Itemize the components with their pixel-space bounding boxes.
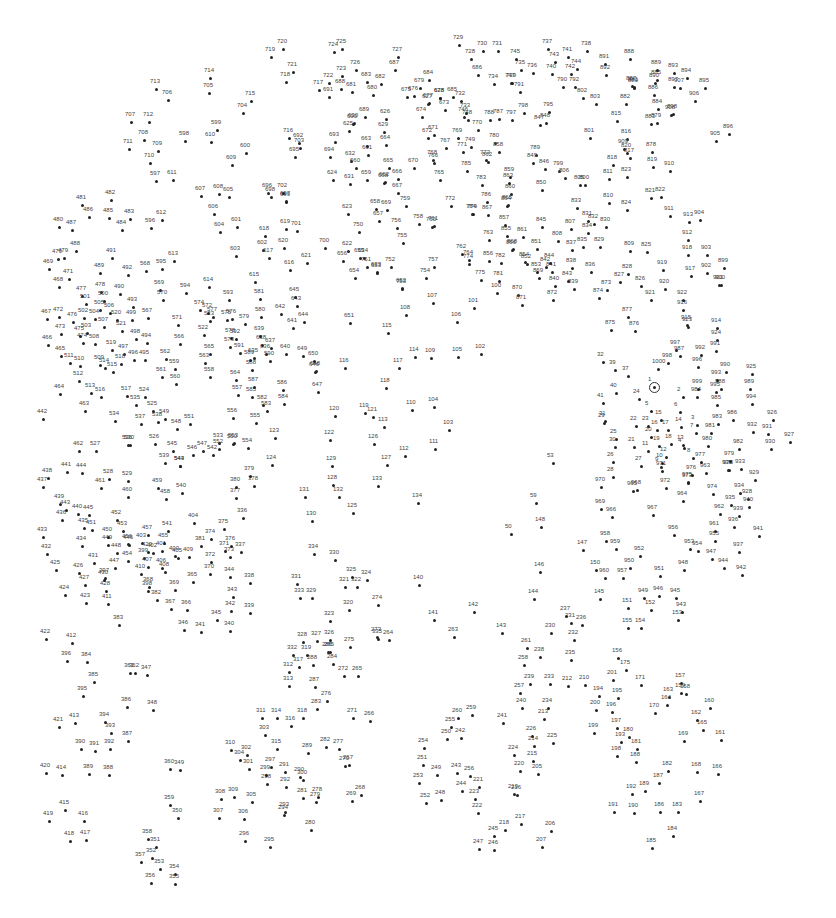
dot-number-label: 369 xyxy=(169,579,179,585)
dot-number-label: 889 xyxy=(651,59,661,65)
dot-number-label: 744 xyxy=(571,58,581,64)
dot-number-label: 230 xyxy=(545,622,555,628)
dot-marker-icon xyxy=(164,571,167,574)
dot-marker-icon xyxy=(175,383,178,386)
dot-marker-icon xyxy=(610,329,613,332)
dot-number-label: 304 xyxy=(234,749,244,755)
dot-marker-icon xyxy=(467,119,470,122)
dot-marker-icon xyxy=(579,184,582,187)
dot-number-label: 876 xyxy=(629,320,639,326)
dot-marker-icon xyxy=(480,353,483,356)
dot-marker-icon xyxy=(699,219,702,222)
dot-number-label: 348 xyxy=(147,699,157,705)
dot-number-label: 580 xyxy=(255,306,265,312)
dot-number-label: 960 xyxy=(599,567,609,573)
dot-marker-icon xyxy=(343,675,346,678)
dot-number-label: 825 xyxy=(641,241,651,247)
dot-number-label: 250 xyxy=(441,728,451,734)
dot-number-label: 339 xyxy=(244,602,254,608)
dot-number-label: 184 xyxy=(667,825,677,831)
dot-marker-icon xyxy=(264,734,267,737)
dot-marker-icon xyxy=(634,330,637,333)
dot-number-label: 19 xyxy=(653,435,660,441)
dot-number-label: 395 xyxy=(77,685,87,691)
dot-number-label: 254 xyxy=(418,737,428,743)
dot-number-label: 554 xyxy=(242,437,252,443)
dot-number-label: 210 xyxy=(579,674,589,680)
dot-marker-icon xyxy=(253,485,256,488)
dot-marker-icon xyxy=(513,754,516,757)
dot-number-label: 669 xyxy=(381,199,391,205)
dot-number-label: 272 xyxy=(338,665,348,671)
dot-number-label: 145 xyxy=(594,588,604,594)
dot-marker-icon xyxy=(567,56,570,59)
dot-marker-icon xyxy=(45,772,48,775)
dot-marker-icon xyxy=(390,266,393,269)
dot-marker-icon xyxy=(161,550,164,553)
dot-marker-icon xyxy=(433,406,436,409)
dot-number-label: 175 xyxy=(620,659,630,665)
dot-marker-icon xyxy=(397,178,400,181)
dot-marker-icon xyxy=(239,759,242,762)
dot-marker-icon xyxy=(149,162,152,165)
dot-marker-icon xyxy=(317,391,320,394)
dot-number-label: 483 xyxy=(124,208,134,214)
dot-marker-icon xyxy=(647,425,650,428)
dot-number-label: 774 xyxy=(463,253,473,259)
dot-marker-icon xyxy=(477,74,480,77)
dot-number-label: 805 xyxy=(574,174,584,180)
dot-marker-icon xyxy=(576,207,579,210)
dot-number-label: 555 xyxy=(250,412,260,418)
dot-marker-icon xyxy=(310,829,313,832)
dot-number-label: 279 xyxy=(310,791,320,797)
dot-number-label: 981 xyxy=(705,422,715,428)
dot-marker-icon xyxy=(229,556,232,559)
dot-marker-icon xyxy=(539,571,542,574)
dot-number-label: 719 xyxy=(265,46,275,52)
dot-number-label: 537 xyxy=(135,413,145,419)
dot-marker-icon xyxy=(595,103,598,106)
dot-marker-icon xyxy=(582,246,585,249)
dot-marker-icon xyxy=(244,840,247,843)
dot-number-label: 337 xyxy=(235,541,245,547)
dot-number-label: 553 xyxy=(228,432,238,438)
dot-marker-icon xyxy=(369,720,372,723)
dot-marker-icon xyxy=(439,97,442,100)
dot-number-label: 181 xyxy=(631,738,641,744)
dot-number-label: 849 xyxy=(527,152,537,158)
dot-marker-icon xyxy=(602,402,605,405)
dot-number-label: 545 xyxy=(167,440,177,446)
dot-marker-icon xyxy=(103,326,106,329)
dot-marker-icon xyxy=(500,262,503,265)
dot-number-label: 390 xyxy=(75,738,85,744)
dot-marker-icon xyxy=(307,752,310,755)
dot-number-label: 571 xyxy=(172,314,182,320)
dot-marker-icon xyxy=(296,583,299,586)
dot-number-label: 1 xyxy=(648,376,651,382)
dot-number-label: 920 xyxy=(659,278,669,284)
dot-marker-icon xyxy=(526,647,529,650)
dot-number-label: 790 xyxy=(557,76,567,82)
dot-number-label: 215 xyxy=(527,750,537,756)
dot-number-label: 105 xyxy=(452,346,462,352)
dot-number-label: 341 xyxy=(195,621,205,627)
dot-marker-icon xyxy=(622,577,625,580)
dot-number-label: 23 xyxy=(642,415,649,421)
dot-marker-icon xyxy=(130,121,133,124)
dot-number-label: 676 xyxy=(408,85,418,91)
dot-marker-icon xyxy=(376,272,379,275)
dot-marker-icon xyxy=(493,849,496,852)
dot-marker-icon xyxy=(386,209,389,212)
dot-marker-icon xyxy=(276,748,279,751)
dot-number-label: 848 xyxy=(540,112,550,118)
dot-marker-icon xyxy=(652,166,655,169)
dot-number-label: 429 xyxy=(142,541,152,547)
dot-number-label: 112 xyxy=(399,445,409,451)
dot-number-label: 867 xyxy=(482,204,492,210)
dot-marker-icon xyxy=(543,718,546,721)
dot-number-label: 349 xyxy=(174,759,184,765)
dot-number-label: 248 xyxy=(435,789,445,795)
dot-marker-icon xyxy=(326,700,329,703)
dot-number-label: 347 xyxy=(141,664,151,670)
dot-number-label: 768 xyxy=(427,149,437,155)
